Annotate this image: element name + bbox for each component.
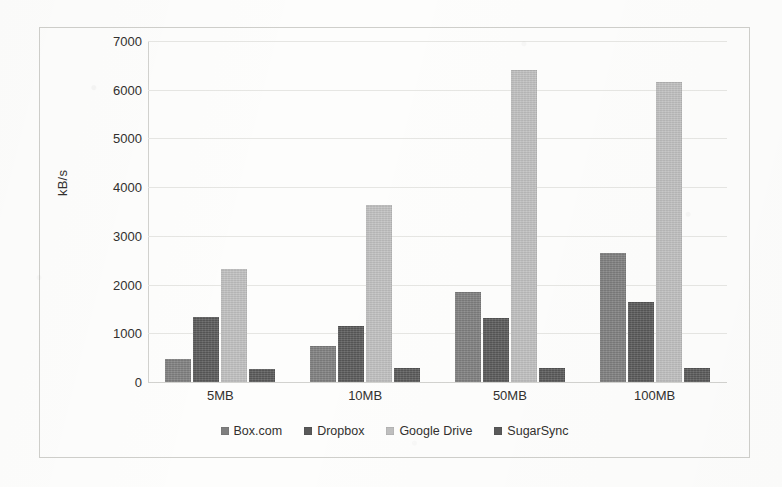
y-axis-tick-label: 5000 bbox=[92, 131, 142, 146]
legend-item-box-com[interactable]: Box.com bbox=[221, 424, 283, 438]
bar-dropbox-10mb[interactable] bbox=[338, 326, 364, 382]
legend-swatch-sugarsync bbox=[494, 427, 502, 435]
bar-sugarsync-10mb[interactable] bbox=[394, 368, 420, 382]
y-axis-tick-label: 6000 bbox=[92, 82, 142, 97]
bar-sugarsync-5mb[interactable] bbox=[249, 369, 275, 382]
x-axis-tick-label: 50MB bbox=[438, 388, 583, 403]
legend-swatch-dropbox bbox=[304, 427, 312, 435]
y-axis-tick-label: 4000 bbox=[92, 180, 142, 195]
y-axis-tick-label: 0 bbox=[92, 375, 142, 390]
legend-item-label: Box.com bbox=[234, 424, 283, 438]
chart-frame: kB/s 70006000500040003000200010000 5MB10… bbox=[39, 27, 750, 458]
bar-group bbox=[582, 41, 727, 382]
bar-box-com-100mb[interactable] bbox=[600, 253, 626, 382]
bar-box-com-50mb[interactable] bbox=[455, 292, 481, 382]
bar-group bbox=[438, 41, 583, 382]
plot-area bbox=[148, 41, 727, 382]
legend-item-label: Google Drive bbox=[399, 424, 472, 438]
legend-item-label: Dropbox bbox=[317, 424, 364, 438]
chart-plot-wrapper: kB/s 70006000500040003000200010000 5MB10… bbox=[40, 28, 749, 457]
bar-group bbox=[293, 41, 438, 382]
y-axis-title: kB/s bbox=[55, 170, 70, 196]
x-axis-tick-labels: 5MB10MB50MB100MB bbox=[148, 388, 727, 403]
bar-google-drive-100mb[interactable] bbox=[656, 82, 682, 382]
bar-sugarsync-100mb[interactable] bbox=[684, 368, 710, 382]
y-axis-tick-label: 7000 bbox=[92, 34, 142, 49]
bar-dropbox-50mb[interactable] bbox=[483, 318, 509, 382]
bar-box-com-10mb[interactable] bbox=[310, 346, 336, 382]
y-axis-tick-label: 3000 bbox=[92, 228, 142, 243]
bar-dropbox-5mb[interactable] bbox=[193, 317, 219, 382]
legend-item-label: SugarSync bbox=[507, 424, 568, 438]
y-axis-tick-label: 2000 bbox=[92, 277, 142, 292]
legend-item-dropbox[interactable]: Dropbox bbox=[304, 424, 364, 438]
bar-box-com-5mb[interactable] bbox=[165, 359, 191, 382]
x-axis-tick-label: 10MB bbox=[293, 388, 438, 403]
legend-swatch-box-com bbox=[221, 427, 229, 435]
bar-google-drive-10mb[interactable] bbox=[366, 205, 392, 382]
legend-item-sugarsync[interactable]: SugarSync bbox=[494, 424, 568, 438]
x-axis-baseline bbox=[148, 382, 727, 383]
bar-dropbox-100mb[interactable] bbox=[628, 302, 654, 382]
y-axis-tick-labels: 70006000500040003000200010000 bbox=[86, 41, 142, 382]
chart-legend: Box.comDropboxGoogle DriveSugarSync bbox=[40, 424, 749, 438]
legend-item-google-drive[interactable]: Google Drive bbox=[386, 424, 472, 438]
legend-swatch-google-drive bbox=[386, 427, 394, 435]
bar-groups bbox=[148, 41, 727, 382]
bar-google-drive-50mb[interactable] bbox=[511, 70, 537, 382]
x-axis-tick-label: 100MB bbox=[582, 388, 727, 403]
bar-sugarsync-50mb[interactable] bbox=[539, 368, 565, 382]
bar-group bbox=[148, 41, 293, 382]
y-axis-tick-label: 1000 bbox=[92, 326, 142, 341]
x-axis-tick-label: 5MB bbox=[148, 388, 293, 403]
bar-google-drive-5mb[interactable] bbox=[221, 269, 247, 383]
